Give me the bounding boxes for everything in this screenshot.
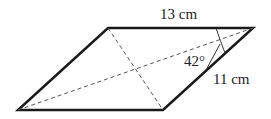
parallelogram-diagram: 13 cm 42° 11 cm [0, 0, 271, 119]
angle-label: 42° [184, 53, 205, 69]
top-side-label: 13 cm [160, 6, 197, 22]
short-diagonal [108, 28, 163, 110]
right-side-label: 11 cm [213, 71, 250, 87]
